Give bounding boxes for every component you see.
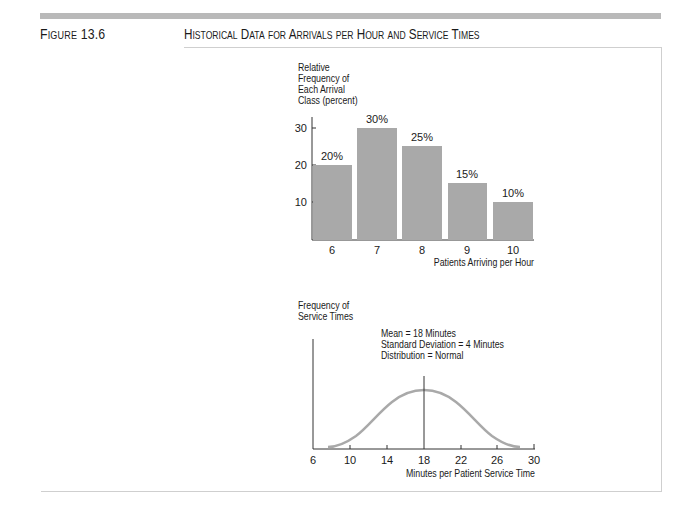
- bar-7: [357, 128, 397, 240]
- bar-xlabel: Patients Arriving per Hour: [434, 256, 535, 268]
- ytick-label-30: 30: [295, 122, 307, 134]
- dist-xlabel: Minutes per Patient Service Time: [406, 467, 535, 479]
- dist-xtick-label-14: 14: [381, 454, 393, 466]
- dist-xtick-label-18: 18: [418, 454, 430, 466]
- bar-6: [313, 165, 352, 240]
- dist-xtick-label-6: 6: [310, 454, 316, 466]
- dist-ylabel-line-2: Service Times: [298, 310, 353, 322]
- xtick-label-10: 10: [507, 244, 519, 256]
- bar-label-8: 25%: [411, 131, 433, 143]
- bar-label-10: 10%: [502, 187, 524, 199]
- bar-ylabel-line-4: Class (percent): [298, 94, 358, 106]
- bar-label-9: 15%: [456, 168, 478, 180]
- dist-xtick-label-26: 26: [491, 454, 503, 466]
- xtick-label-9: 9: [464, 244, 470, 256]
- ytick-label-20: 20: [295, 159, 307, 171]
- charts-canvas: Relative Frequency of Each Arrival Class…: [0, 0, 696, 506]
- bar-10: [493, 202, 533, 240]
- xtick-label-6: 6: [329, 244, 335, 256]
- bar-9: [448, 183, 487, 240]
- annotation-distribution: Distribution = Normal: [381, 349, 463, 361]
- dist-xtick-label-10: 10: [344, 454, 356, 466]
- xtick-label-8: 8: [419, 244, 425, 256]
- dist-xtick-label-30: 30: [528, 454, 540, 466]
- distribution-chart: Frequency of Service Times Mean = 18 Min…: [298, 299, 540, 479]
- ytick-label-10: 10: [295, 196, 307, 208]
- bar-chart: Relative Frequency of Each Arrival Class…: [295, 61, 535, 268]
- bar-8: [402, 146, 442, 240]
- dist-xtick-label-22: 22: [455, 454, 467, 466]
- bar-label-6: 20%: [321, 150, 343, 162]
- xtick-label-7: 7: [374, 244, 380, 256]
- bar-label-7: 30%: [366, 113, 388, 125]
